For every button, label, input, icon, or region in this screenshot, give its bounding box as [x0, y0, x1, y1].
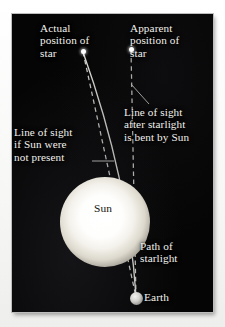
path-of-starlight-label: Path of starlight — [140, 240, 212, 265]
diagram-panel: Sun Earth Actual position of star Appare… — [12, 14, 213, 312]
actual-star-marker — [81, 49, 86, 54]
apparent-star-marker — [129, 47, 134, 52]
leader-line-bent — [131, 84, 149, 104]
earth-label: Earth — [144, 291, 204, 303]
actual-star-label: Actual position of star — [40, 22, 114, 59]
sun-label: Sun — [72, 202, 134, 214]
earth-body — [130, 292, 143, 305]
apparent-star-label: Apparent position of star — [130, 22, 213, 59]
diagram-page: Sun Earth Actual position of star Appare… — [0, 0, 225, 327]
line-of-sight-bent-label: Line of sight after starlight is bent by… — [124, 106, 213, 143]
sun-body — [60, 177, 150, 267]
line-of-sight-no-sun-label: Line of sight if Sun were not present — [14, 126, 106, 163]
